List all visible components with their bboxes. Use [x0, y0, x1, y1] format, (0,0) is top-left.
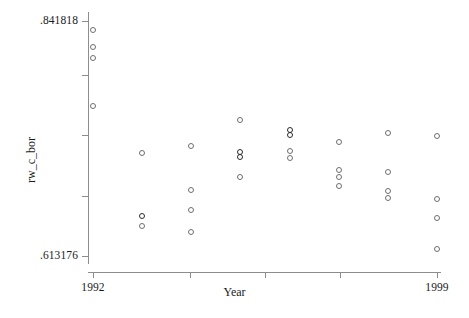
data-point-marker — [385, 169, 391, 175]
y-axis-tick-minor-2 — [82, 135, 88, 136]
plot-area: .841818 .613176 1992 1999 rw_c_bor Year — [0, 0, 469, 318]
data-point-marker — [336, 183, 342, 189]
data-point-marker — [188, 229, 194, 235]
data-point-marker — [287, 148, 293, 154]
data-point-marker — [90, 44, 96, 50]
scatter-plot-figure: .841818 .613176 1992 1999 rw_c_bor Year — [0, 0, 469, 318]
x-axis-tick-1992 — [93, 272, 94, 278]
data-point-marker — [336, 139, 342, 145]
data-point-marker — [237, 174, 243, 180]
y-axis-label-max: .841818 — [0, 14, 78, 26]
data-point-marker — [90, 103, 96, 109]
data-point-marker — [434, 196, 440, 202]
x-axis-tick-minor-2 — [265, 272, 266, 278]
x-axis-title: Year — [0, 285, 469, 300]
y-axis-title: rw_c_bor — [24, 137, 39, 183]
data-point-marker — [90, 27, 96, 33]
data-point-marker — [336, 174, 342, 180]
data-point-marker — [336, 167, 342, 173]
x-axis-tick-minor-3 — [340, 272, 341, 278]
data-point-marker — [434, 246, 440, 252]
x-axis-tick-minor-1 — [190, 272, 191, 278]
y-axis-tick-minor-1 — [82, 75, 88, 76]
data-point-marker — [287, 132, 293, 138]
data-point-marker — [90, 55, 96, 61]
y-axis-tick-minor-3 — [82, 196, 88, 197]
data-point-marker — [237, 154, 243, 160]
data-point-marker — [385, 130, 391, 136]
y-axis-label-min: .613176 — [0, 249, 78, 261]
data-point-marker — [139, 150, 145, 156]
data-point-marker — [139, 223, 145, 229]
data-point-marker — [434, 133, 440, 139]
y-axis-line — [88, 12, 89, 264]
data-point-marker — [287, 155, 293, 161]
data-point-marker — [188, 187, 194, 193]
y-axis-tick-major-top — [82, 21, 88, 22]
data-point-marker — [188, 207, 194, 213]
data-point-marker — [188, 143, 194, 149]
data-point-marker — [434, 215, 440, 221]
data-point-marker — [237, 117, 243, 123]
data-point-marker — [385, 195, 391, 201]
data-point-marker — [139, 213, 145, 219]
x-axis-tick-1999 — [437, 272, 438, 278]
data-point-marker — [385, 188, 391, 194]
y-axis-tick-major-bottom — [82, 256, 88, 257]
